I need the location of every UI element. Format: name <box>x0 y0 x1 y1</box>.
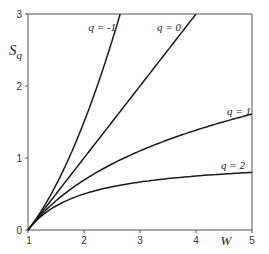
plot-frame <box>28 14 252 230</box>
y-axis-title-subscript: q <box>17 49 23 61</box>
y-tick-0: 0 <box>16 225 22 236</box>
label-q-2: q = 2 <box>221 159 245 171</box>
x-tick-5: 5 <box>249 235 255 246</box>
y-tick-3: 3 <box>16 9 22 20</box>
curve-q-1 <box>28 114 252 230</box>
y-axis-title: Sq <box>9 42 23 61</box>
x-axis-title: W <box>221 233 233 248</box>
tsallis-entropy-chart: 0 1 2 3 1 2 3 4 5 W Sq q = -1 q = 0 q = … <box>0 0 269 254</box>
label-q-neg1: q = -1 <box>88 21 116 33</box>
x-tick-4: 4 <box>193 235 199 246</box>
curve-q-0 <box>28 14 196 230</box>
curve-q-2 <box>28 172 252 230</box>
label-q-0: q = 0 <box>157 21 181 33</box>
x-tick-2: 2 <box>81 235 87 246</box>
label-q-1: q = 1 <box>227 105 251 117</box>
x-tick-3: 3 <box>137 235 143 246</box>
y-tick-1: 1 <box>16 153 22 164</box>
y-tick-2: 2 <box>16 81 22 92</box>
x-tick-1: 1 <box>26 235 32 246</box>
